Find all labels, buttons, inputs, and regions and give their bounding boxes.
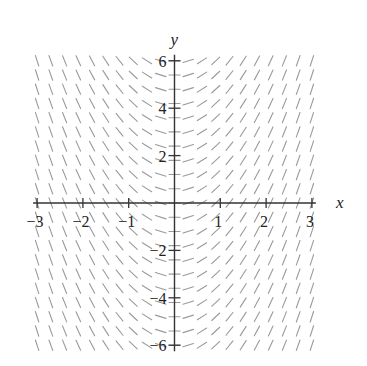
slope-segment	[226, 341, 233, 350]
slope-segment	[310, 184, 313, 194]
slope-segment	[63, 283, 67, 293]
slope-segment	[268, 184, 273, 194]
slope-segment	[63, 340, 67, 350]
slope-segment	[129, 114, 137, 122]
slope-segment	[76, 84, 81, 94]
slope-segment	[129, 100, 137, 108]
slope-segment	[212, 327, 220, 335]
slope-segment	[226, 99, 233, 108]
slope-segment	[35, 70, 38, 80]
slope-segment	[129, 57, 137, 65]
slope-segment	[282, 184, 286, 194]
slope-segment	[226, 128, 233, 137]
slope-segment	[197, 58, 206, 64]
slope-segment	[296, 70, 300, 80]
slope-segment	[103, 156, 109, 165]
slope-segment	[76, 141, 81, 151]
slope-segment	[197, 101, 206, 107]
slope-segment	[254, 340, 259, 350]
slope-segment	[183, 258, 194, 261]
slope-segment	[197, 214, 206, 220]
slope-segment	[254, 255, 259, 265]
slope-segment	[89, 326, 94, 336]
slope-segment	[296, 255, 300, 265]
slope-segment	[183, 116, 194, 119]
y-tick-label: −2	[149, 242, 166, 259]
slope-segment	[254, 170, 259, 180]
slope-segment	[240, 326, 246, 335]
slope-segment	[142, 271, 151, 277]
slope-segment	[156, 130, 167, 133]
slope-segment	[254, 312, 259, 322]
slope-segment	[116, 57, 123, 66]
slope-segment	[183, 73, 194, 76]
slope-segment	[129, 341, 137, 349]
slope-segment	[310, 98, 313, 108]
slope-segment	[226, 170, 233, 179]
slope-segment	[76, 170, 81, 180]
slope-segment	[63, 155, 67, 165]
slope-segment	[49, 169, 53, 179]
slope-segment	[116, 128, 123, 137]
slope-segment	[268, 298, 273, 308]
slope-segment	[212, 57, 220, 65]
slope-segment	[212, 157, 220, 165]
slope-segment	[63, 113, 67, 123]
slope-segment	[103, 241, 109, 250]
slope-segment	[116, 284, 123, 293]
slope-segment	[296, 113, 300, 123]
slope-segment	[35, 283, 38, 293]
slope-segment	[89, 155, 94, 165]
slope-segment	[89, 99, 94, 109]
slope-segment	[296, 98, 300, 108]
slope-segment	[226, 142, 233, 151]
y-tick-label: −4	[149, 290, 166, 307]
slope-segment	[240, 70, 246, 79]
slope-segment	[103, 170, 109, 179]
slope-segment	[35, 255, 38, 265]
slope-segment	[197, 72, 206, 78]
slope-segment	[310, 312, 313, 322]
slope-segment	[183, 230, 194, 233]
slope-segment	[282, 113, 286, 123]
slope-segment	[103, 284, 109, 293]
slope-segment	[183, 329, 194, 332]
slope-segment	[142, 72, 151, 78]
slope-segment	[63, 269, 67, 279]
slope-segment	[212, 341, 220, 349]
slope-segment	[103, 269, 109, 278]
slope-segment	[156, 315, 167, 318]
slope-segment	[142, 129, 151, 135]
slope-segment	[35, 184, 38, 194]
slope-segment	[254, 283, 259, 293]
slope-segment	[296, 269, 300, 279]
slope-segment	[76, 113, 81, 123]
slope-segment	[129, 327, 137, 335]
slope-segment	[89, 255, 94, 265]
slope-segment	[76, 184, 81, 194]
slope-segment	[49, 98, 53, 108]
slope-segment	[282, 297, 286, 307]
slope-segment	[282, 241, 286, 251]
slope-segment	[63, 70, 67, 80]
slope-segment	[103, 227, 109, 236]
slope-segment	[103, 341, 109, 350]
slope-segment	[156, 216, 167, 219]
slope-segment	[254, 269, 259, 279]
slope-segment	[89, 184, 94, 194]
slope-segment	[226, 85, 233, 94]
slope-segment	[142, 214, 151, 220]
slope-segment	[310, 112, 313, 122]
slope-segment	[212, 128, 220, 136]
slope-segment	[183, 315, 194, 318]
slope-segment	[49, 297, 53, 307]
slope-segment	[76, 255, 81, 265]
slope-segment	[116, 142, 123, 151]
slope-segment	[226, 256, 233, 265]
slope-segment	[156, 272, 167, 275]
slope-segment	[76, 241, 81, 251]
slope-segment	[240, 312, 246, 321]
slope-segment	[35, 169, 38, 179]
slope-field-chart: −3−2−1123 −6−4−2246 x y	[0, 0, 367, 366]
slope-segment	[212, 285, 220, 293]
